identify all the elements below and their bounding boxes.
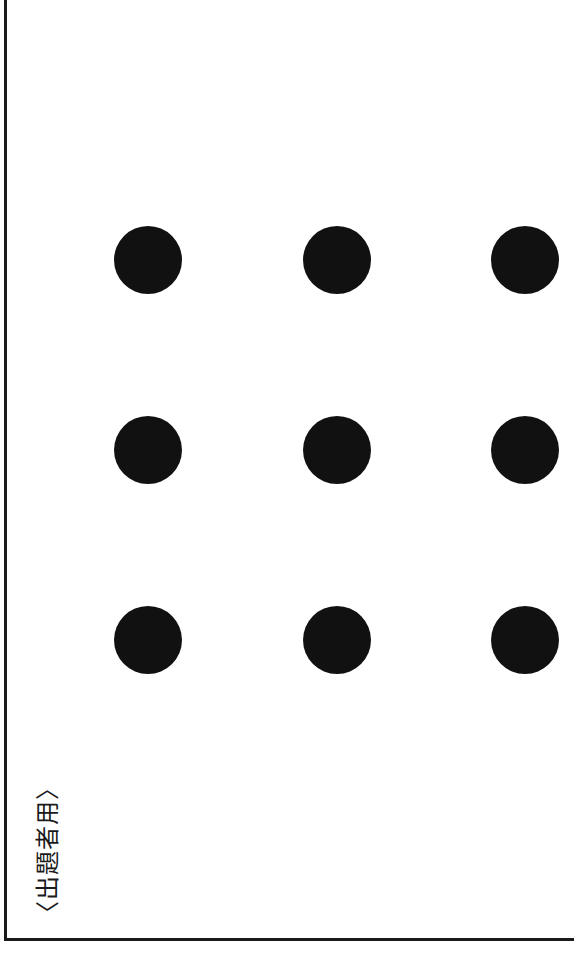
examiner-use-label: 〈出題者用〉 xyxy=(28,775,63,925)
dot-r1-c1 xyxy=(114,226,182,294)
dot-r3-c3 xyxy=(491,606,559,674)
dot-r3-c2 xyxy=(303,606,371,674)
dot-r1-c2 xyxy=(303,226,371,294)
dot-r2-c1 xyxy=(114,416,182,484)
dot-r3-c1 xyxy=(114,606,182,674)
sheet-border xyxy=(4,0,574,941)
dot-r1-c3 xyxy=(491,226,559,294)
dot-r2-c3 xyxy=(491,416,559,484)
dot-r2-c2 xyxy=(303,416,371,484)
